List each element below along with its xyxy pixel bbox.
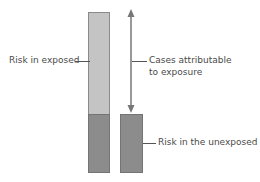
risk-unexposed-leader	[143, 143, 156, 144]
attributable-label-line1: Cases attributable	[149, 55, 232, 66]
double-arrow-icon	[0, 0, 260, 182]
attributable-label-line2: to exposure	[149, 67, 202, 78]
risk-exposed-leader	[75, 61, 90, 62]
risk-exposed-label: Risk in exposed	[9, 55, 79, 66]
risk-unexposed-label: Risk in the unexposed	[158, 137, 257, 148]
attributable-leader	[132, 61, 147, 62]
